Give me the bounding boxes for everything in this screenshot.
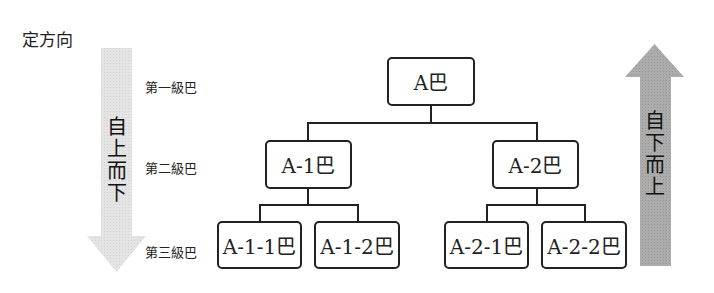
connector [357,204,359,222]
arrow-char: 下 [643,132,667,154]
connector [259,204,359,206]
node-a-2-1: A-2-1巴 [444,221,529,269]
connector [307,188,309,205]
arrow-char: 上 [643,176,667,198]
level-2-label: 第二級巴 [145,158,197,177]
diagram-title: 定方向 [22,26,73,51]
node-a-1-2: A-1-2巴 [314,221,400,269]
bottom-up-label: 自 下 而 上 [643,110,667,198]
connector [486,204,488,222]
connector [307,122,538,124]
arrow-char: 上 [105,138,129,160]
connector [536,188,538,205]
connector [536,122,538,141]
node-a-2-2: A-2-2巴 [541,221,627,269]
connector [584,204,586,222]
connector [307,122,309,141]
connector [486,204,586,206]
node-a-1-1: A-1-1巴 [217,221,302,269]
level-3-label: 第三級巴 [145,242,197,261]
arrow-char: 而 [643,154,667,176]
top-down-label: 自 上 而 下 [105,116,129,204]
level-1-label: 第一級巴 [145,77,197,96]
node-a-1: A-1巴 [265,140,352,189]
connector [259,204,261,222]
node-a-2: A-2巴 [492,140,579,189]
arrow-char: 自 [643,110,667,132]
arrow-char: 自 [105,116,129,138]
arrow-char: 下 [105,182,129,204]
node-a: A巴 [387,57,475,106]
arrow-char: 而 [105,160,129,182]
